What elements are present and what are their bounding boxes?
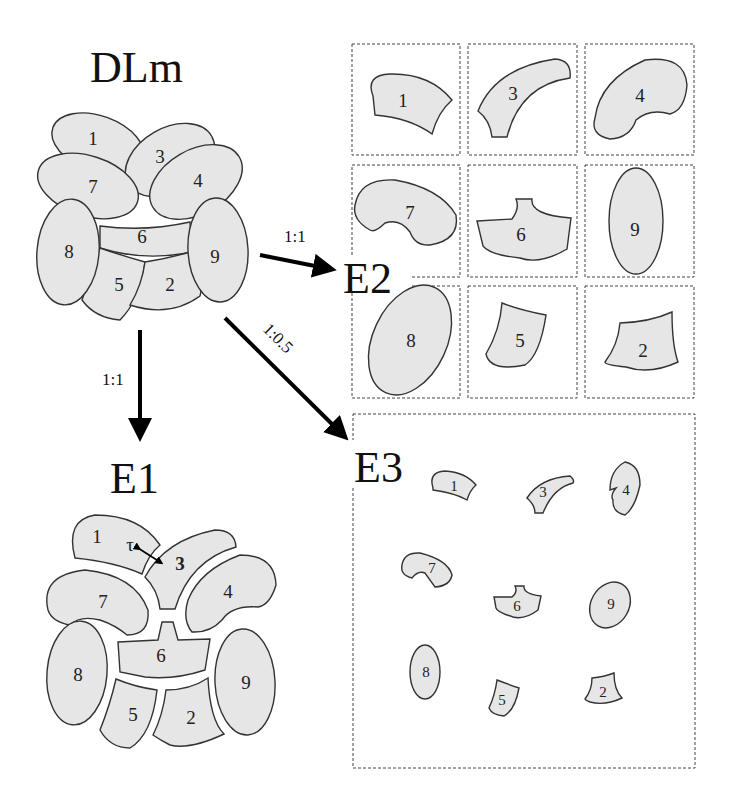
e3-label-6: 6 xyxy=(513,598,521,614)
dlm-label-6: 6 xyxy=(137,226,147,247)
e3-label-8: 8 xyxy=(422,664,430,680)
diagram-canvas: DLm 1 3 7 4 6 8 9 5 2 1:1 1:1 1:0.5 xyxy=(0,0,733,808)
ratio-label-e2: 1:1 xyxy=(284,227,306,246)
e2-label-5: 5 xyxy=(515,330,525,351)
e2-label-8: 8 xyxy=(406,330,416,351)
e1-label-3: 3 xyxy=(175,553,185,574)
e2-piece-1 xyxy=(371,74,452,134)
e3-label-1: 1 xyxy=(450,478,458,494)
dlm-label-8: 8 xyxy=(64,241,74,262)
e1-piece-1 xyxy=(73,515,161,574)
title-dlm: DLm xyxy=(90,43,183,92)
e3-label-9: 9 xyxy=(607,596,615,612)
arrow-to-e2 xyxy=(260,255,325,268)
title-e1: E1 xyxy=(110,454,159,503)
e3-label-5: 5 xyxy=(498,692,506,708)
dlm-label-3: 3 xyxy=(155,146,165,167)
e2-label-1: 1 xyxy=(398,90,408,111)
e2-grid: 1 3 4 7 6 9 8 5 2 xyxy=(340,44,694,408)
e2-label-4: 4 xyxy=(635,85,645,106)
dlm-label-1: 1 xyxy=(88,128,98,149)
e1-label-4: 4 xyxy=(223,581,233,602)
tau-label: τ xyxy=(126,534,134,555)
e1-label-7: 7 xyxy=(98,591,108,612)
e2-piece-3 xyxy=(478,59,570,137)
title-e3: E3 xyxy=(354,443,403,492)
e1-label-2: 2 xyxy=(186,707,196,728)
dlm-assembly: 1 3 7 4 6 8 9 5 2 xyxy=(29,101,255,320)
dlm-label-4: 4 xyxy=(193,170,203,191)
e2-label-7: 7 xyxy=(405,202,415,223)
dlm-label-9: 9 xyxy=(210,246,220,267)
e3-label-3: 3 xyxy=(539,484,547,500)
e1-label-1: 1 xyxy=(92,526,102,547)
e3-label-4: 4 xyxy=(622,482,630,498)
e3-piece-7 xyxy=(402,553,452,587)
e3-label-7: 7 xyxy=(428,560,436,576)
ratio-label-e3: 1:0.5 xyxy=(259,319,297,357)
dlm-label-5: 5 xyxy=(114,274,124,295)
e2-label-9: 9 xyxy=(630,219,640,240)
dlm-label-7: 7 xyxy=(88,176,98,197)
e2-label-6: 6 xyxy=(516,224,526,245)
e3-piece-3 xyxy=(527,476,574,513)
e3-label-2: 2 xyxy=(599,684,607,700)
title-e2: E2 xyxy=(343,254,392,303)
e1-label-5: 5 xyxy=(128,704,138,725)
e1-label-9: 9 xyxy=(241,672,251,693)
e1-label-6: 6 xyxy=(156,645,166,666)
ratio-label-e1: 1:1 xyxy=(102,370,124,389)
e2-label-2: 2 xyxy=(638,340,648,361)
dlm-label-2: 2 xyxy=(165,274,175,295)
e1-label-8: 8 xyxy=(73,664,83,685)
e2-label-3: 3 xyxy=(508,83,518,104)
e1-assembly: 1 τ 3 7 4 6 8 9 5 2 xyxy=(43,515,278,748)
